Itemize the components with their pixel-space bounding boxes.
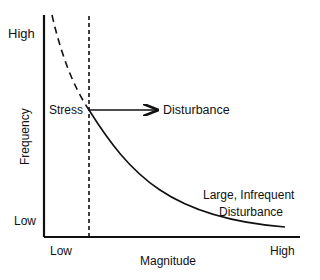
x-tick-high: High [270,244,295,258]
x-axis-label: Magnitude [140,254,196,268]
y-tick-high: High [8,27,35,41]
y-tick-low: Low [14,214,36,228]
disturbance-label: Disturbance [163,103,230,117]
x-tick-low: Low [50,244,72,258]
curve-dashed [52,15,89,110]
diagram-canvas [0,0,320,280]
y-axis-label: Frequency [18,108,32,165]
lid-label-line2: Disturbance [219,205,283,219]
stress-label: Stress [49,103,83,117]
lid-label-line1: Large, Infrequent [203,188,294,202]
